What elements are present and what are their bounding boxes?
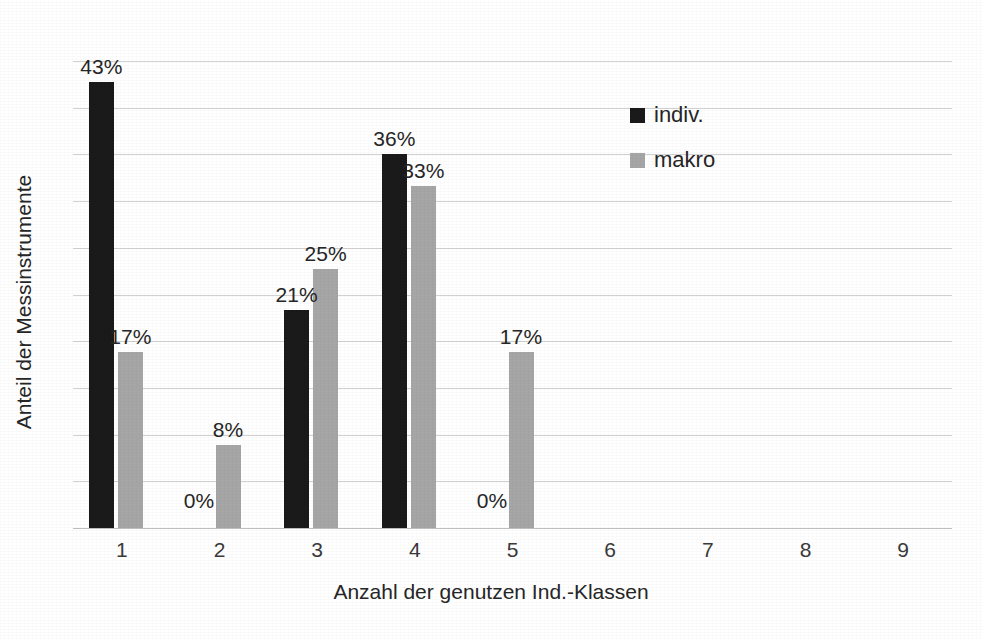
y-axis-title: Anteil der Messinstrumente bbox=[12, 102, 36, 502]
gridline bbox=[73, 61, 952, 62]
gridline bbox=[73, 248, 952, 249]
gridline bbox=[73, 108, 952, 109]
bar-indiv-1[interactable] bbox=[89, 82, 114, 528]
data-label-indiv-2: 0% bbox=[175, 490, 223, 511]
data-label-makro-5: 17% bbox=[497, 326, 545, 347]
legend-swatch-icon-indiv bbox=[630, 108, 645, 123]
data-label-makro-2: 8% bbox=[204, 419, 252, 440]
bar-makro-3[interactable] bbox=[313, 269, 338, 528]
gridline bbox=[73, 201, 952, 202]
data-label-indiv-4: 36% bbox=[370, 128, 418, 149]
x-tick-5: 5 bbox=[493, 538, 533, 561]
data-label-indiv-3: 21% bbox=[273, 284, 321, 305]
bar-indiv-4[interactable] bbox=[382, 154, 407, 528]
bar-makro-4[interactable] bbox=[411, 186, 436, 528]
data-label-makro-3: 25% bbox=[302, 243, 350, 264]
data-label-makro-1: 17% bbox=[106, 326, 154, 347]
gridline bbox=[73, 154, 952, 155]
x-tick-9: 9 bbox=[883, 538, 923, 561]
legend-label-indiv: indiv. bbox=[654, 103, 704, 127]
data-label-indiv-1: 43% bbox=[77, 56, 125, 77]
legend-swatch-icon-makro bbox=[630, 153, 645, 168]
x-tick-3: 3 bbox=[297, 538, 337, 561]
axis-baseline bbox=[73, 528, 952, 529]
data-label-makro-4: 33% bbox=[399, 160, 447, 181]
x-tick-7: 7 bbox=[688, 538, 728, 561]
x-tick-1: 1 bbox=[102, 538, 142, 561]
bar-chart: 43%17%0%8%21%25%36%33%0%17% 123456789 An… bbox=[0, 0, 982, 639]
bar-makro-1[interactable] bbox=[118, 352, 143, 528]
legend-item-indiv[interactable]: indiv. bbox=[630, 100, 715, 130]
legend-item-makro[interactable]: makro bbox=[630, 145, 715, 175]
x-tick-4: 4 bbox=[395, 538, 435, 561]
chart-legend: indiv. makro bbox=[630, 100, 715, 190]
bar-indiv-3[interactable] bbox=[284, 310, 309, 528]
bar-makro-2[interactable] bbox=[216, 445, 241, 528]
data-label-indiv-5: 0% bbox=[468, 490, 516, 511]
x-tick-2: 2 bbox=[200, 538, 240, 561]
gridline bbox=[73, 295, 952, 296]
legend-label-makro: makro bbox=[654, 148, 715, 172]
x-tick-8: 8 bbox=[786, 538, 826, 561]
x-tick-6: 6 bbox=[590, 538, 630, 561]
x-axis-title: Anzahl der genutzen Ind.-Klassen bbox=[0, 580, 982, 604]
plot-area bbox=[73, 61, 952, 528]
